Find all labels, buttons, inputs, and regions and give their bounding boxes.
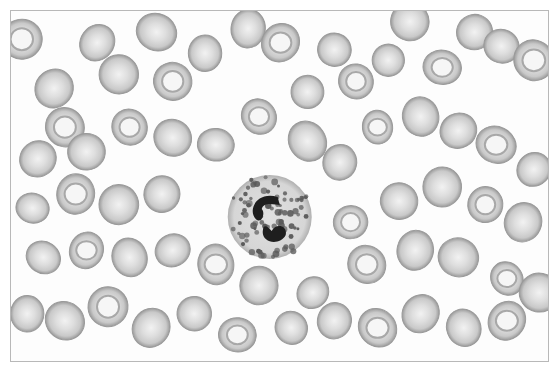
granule (246, 203, 251, 208)
red-blood-cell (130, 11, 182, 57)
red-blood-cell (106, 233, 153, 282)
granule (296, 227, 299, 230)
granule (290, 248, 296, 254)
granule (254, 230, 259, 235)
granule (232, 196, 235, 199)
red-blood-cell (217, 316, 258, 354)
red-blood-cell (195, 242, 236, 287)
red-blood-cell (290, 74, 326, 110)
red-blood-cell (510, 145, 549, 193)
granule (261, 187, 268, 194)
granule (239, 233, 245, 239)
red-blood-cell (470, 119, 523, 170)
granule (249, 178, 253, 182)
granule (274, 248, 280, 254)
red-blood-cell (393, 227, 438, 274)
granule (292, 208, 298, 214)
granule (238, 221, 242, 225)
granule (282, 198, 286, 202)
granule (259, 220, 264, 225)
granule (242, 208, 247, 213)
red-blood-cell (149, 228, 195, 273)
red-blood-cell (498, 197, 548, 248)
red-blood-cell (398, 93, 443, 141)
red-blood-cell (375, 177, 423, 224)
red-blood-cell (20, 234, 67, 280)
micrograph-frame (10, 10, 549, 362)
red-blood-cell (234, 261, 283, 311)
granule (282, 246, 288, 252)
granule (239, 197, 243, 201)
red-blood-cell (27, 61, 81, 116)
red-blood-cell (141, 173, 183, 215)
red-blood-cell (38, 294, 93, 348)
red-blood-cell (105, 102, 155, 152)
granule (246, 186, 250, 190)
granule (289, 198, 293, 202)
red-blood-cell (170, 289, 218, 338)
red-blood-cell (125, 301, 178, 355)
granule (241, 242, 245, 246)
granule (304, 214, 309, 219)
granule (249, 249, 255, 255)
granule (289, 223, 295, 229)
red-blood-cell (11, 295, 44, 333)
granule (304, 195, 308, 199)
red-blood-cell (434, 106, 483, 155)
red-blood-cell (269, 305, 314, 350)
granule (271, 179, 278, 186)
granule (249, 197, 252, 200)
granule (253, 221, 259, 227)
red-blood-cell (422, 166, 462, 207)
red-blood-cell (465, 184, 505, 224)
granule (289, 234, 294, 239)
red-blood-cell (394, 287, 447, 340)
red-blood-cell (330, 202, 371, 242)
granule (299, 205, 304, 210)
granule (264, 175, 268, 179)
red-blood-cell (383, 11, 437, 48)
red-blood-cell (350, 301, 404, 355)
red-blood-cell (433, 232, 484, 282)
granule (279, 209, 283, 213)
granule (243, 192, 248, 197)
granule (283, 191, 287, 195)
red-blood-cell (95, 181, 142, 228)
granule (277, 185, 280, 188)
red-blood-cell (196, 126, 237, 163)
granule (244, 238, 248, 242)
red-blood-cell (234, 92, 284, 142)
granule (258, 250, 263, 255)
granule (243, 200, 247, 204)
red-blood-cell (147, 112, 199, 164)
red-blood-cell (420, 47, 464, 88)
red-blood-cell (64, 227, 110, 275)
red-blood-cell (98, 54, 139, 95)
granule (276, 219, 283, 226)
red-blood-cell (188, 35, 222, 72)
red-blood-cell (11, 17, 45, 62)
granule (231, 227, 236, 232)
red-blood-cell (54, 171, 98, 217)
red-blood-cell (13, 189, 53, 227)
white-blood-cell (228, 175, 312, 259)
red-blood-cell (441, 304, 486, 352)
blood-smear-image (11, 11, 549, 362)
granule (250, 182, 256, 188)
red-blood-cell (80, 279, 136, 335)
red-blood-cell (361, 109, 395, 146)
red-blood-cell (340, 237, 394, 291)
